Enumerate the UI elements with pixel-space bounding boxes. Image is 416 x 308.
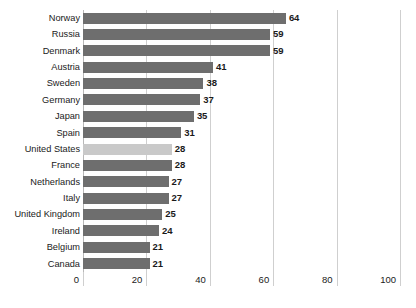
category-label: France: [5, 157, 80, 173]
x-tick-label-100: 100: [380, 274, 400, 286]
bar[interactable]: [83, 209, 162, 220]
bar[interactable]: [83, 176, 169, 187]
bar-chart: NorwayRussiaDenmarkAustriaSwedenGermanyJ…: [0, 0, 416, 308]
category-label: Russia: [5, 26, 80, 42]
gridline-100: [400, 10, 401, 272]
bar-value-label: 27: [172, 175, 182, 188]
bar[interactable]: [83, 45, 270, 56]
bar[interactable]: [83, 193, 169, 204]
bar-value-label: 21: [153, 257, 163, 270]
x-tick-mark-40: [210, 272, 211, 286]
x-axis-line: [83, 272, 401, 273]
category-label: Canada: [5, 256, 80, 272]
bar-value-label: 28: [175, 158, 185, 171]
bar[interactable]: [83, 13, 286, 24]
bar-value-label: 59: [273, 44, 283, 57]
bar-value-label: 25: [165, 207, 175, 220]
bar-value-label: 37: [203, 93, 213, 106]
bar-row: 27: [83, 174, 400, 190]
bar-value-label: 35: [197, 109, 207, 122]
x-tick-label-20: 20: [132, 274, 147, 286]
bar-row: 25: [83, 206, 400, 222]
category-label: Norway: [5, 10, 80, 26]
x-tick-label-80: 80: [322, 274, 337, 286]
bar-value-label: 59: [273, 27, 283, 40]
bar-value-label: 27: [172, 191, 182, 204]
bar-rows: 64595941383735312828272725242121: [83, 10, 400, 272]
category-label: Germany: [5, 92, 80, 108]
x-tick-label-40: 40: [195, 274, 210, 286]
bar-row: 59: [83, 43, 400, 59]
category-label: Japan: [5, 108, 80, 124]
category-label: Ireland: [5, 223, 80, 239]
x-tick-mark-100: [400, 272, 401, 286]
bar-value-label: 38: [206, 76, 216, 89]
bar[interactable]: [83, 29, 270, 40]
bar-row: 37: [83, 92, 400, 108]
bar-value-label: 31: [184, 126, 194, 139]
bar-row: 35: [83, 108, 400, 124]
category-label: Spain: [5, 125, 80, 141]
bar[interactable]: [83, 62, 213, 73]
category-label: United States: [5, 141, 80, 157]
x-tick-mark-80: [337, 272, 338, 286]
bar[interactable]: [83, 111, 194, 122]
category-label: Netherlands: [5, 174, 80, 190]
bar-value-label: 64: [289, 11, 299, 24]
bar-row: 28: [83, 157, 400, 173]
bar-value-label: 21: [153, 240, 163, 253]
bar[interactable]: [83, 242, 150, 253]
bar-row: 41: [83, 59, 400, 75]
category-label: United Kingdom: [5, 206, 80, 222]
category-label: Italy: [5, 190, 80, 206]
plot-area: 64595941383735312828272725242121: [83, 10, 400, 272]
bar-row: 21: [83, 239, 400, 255]
bar-row: 24: [83, 223, 400, 239]
bar-row: 59: [83, 26, 400, 42]
bar-value-label: 41: [216, 60, 226, 73]
bar[interactable]: [83, 94, 200, 105]
bar[interactable]: [83, 160, 172, 171]
bar[interactable]: [83, 144, 172, 155]
category-axis-labels: NorwayRussiaDenmarkAustriaSwedenGermanyJ…: [0, 10, 80, 272]
x-tick-mark-60: [273, 272, 274, 286]
x-tick-label-0: 0: [74, 274, 83, 286]
bar[interactable]: [83, 225, 159, 236]
category-label: Austria: [5, 59, 80, 75]
category-label: Denmark: [5, 43, 80, 59]
bar-row: 38: [83, 75, 400, 91]
bar-row: 21: [83, 256, 400, 272]
bar-row: 64: [83, 10, 400, 26]
category-label: Belgium: [5, 239, 80, 255]
x-tick-mark-0: [83, 272, 84, 286]
bar-value-label: 28: [175, 142, 185, 155]
x-tick-label-60: 60: [259, 274, 274, 286]
x-tick-mark-20: [146, 272, 147, 286]
category-label: Sweden: [5, 75, 80, 91]
bar-value-label: 24: [162, 224, 172, 237]
bar-row: 28: [83, 141, 400, 157]
bar[interactable]: [83, 78, 203, 89]
bar[interactable]: [83, 258, 150, 269]
bar-row: 31: [83, 125, 400, 141]
bar[interactable]: [83, 127, 181, 138]
bar-row: 27: [83, 190, 400, 206]
